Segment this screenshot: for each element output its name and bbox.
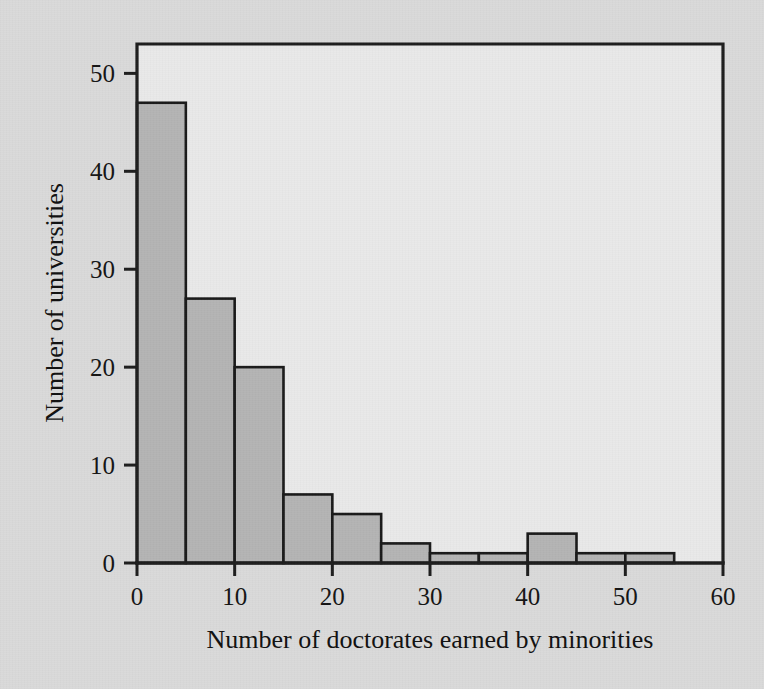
histogram-bar [332, 514, 381, 563]
histogram-chart: 0102030405060 01020304050 Number of doct… [0, 0, 764, 689]
figure-canvas: 0102030405060 01020304050 Number of doct… [0, 0, 764, 689]
x-tick-label: 20 [320, 583, 345, 610]
y-tick-label: 30 [90, 256, 115, 283]
y-axis-label: Number of universities [40, 183, 69, 423]
x-tick-label: 60 [711, 583, 736, 610]
y-axis-ticks [124, 73, 137, 563]
y-axis-tick-labels: 01020304050 [90, 60, 115, 577]
x-tick-label: 0 [131, 583, 144, 610]
histogram-bar [284, 494, 333, 563]
x-axis-label: Number of doctorates earned by minoritie… [207, 625, 654, 654]
histogram-bar [235, 367, 284, 563]
x-tick-label: 10 [222, 583, 247, 610]
y-tick-label: 40 [90, 158, 115, 185]
y-tick-label: 20 [90, 354, 115, 381]
x-axis-ticks [137, 563, 723, 576]
histogram-bar [137, 103, 186, 563]
y-tick-label: 10 [90, 452, 115, 479]
histogram-bar [528, 534, 577, 563]
x-tick-label: 50 [613, 583, 638, 610]
x-axis-tick-labels: 0102030405060 [131, 583, 736, 610]
x-tick-label: 30 [418, 583, 443, 610]
x-tick-label: 40 [515, 583, 540, 610]
histogram-bar [381, 543, 430, 563]
y-tick-label: 0 [103, 550, 116, 577]
histogram-bar [186, 299, 235, 563]
y-tick-label: 50 [90, 60, 115, 87]
